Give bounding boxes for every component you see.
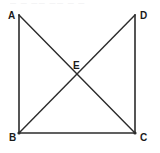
vertex-dot-c [133,131,136,134]
vertex-dot-b [17,131,20,134]
vertex-label-a: A [8,11,15,21]
vertex-label-d: D [140,11,147,21]
figure-canvas [0,0,160,153]
vertex-label-b: B [9,133,16,143]
geometry-figure: — — —— —— — — A D B C E [0,0,160,153]
vertex-label-e: E [73,61,80,71]
vertex-label-c: C [140,133,147,143]
